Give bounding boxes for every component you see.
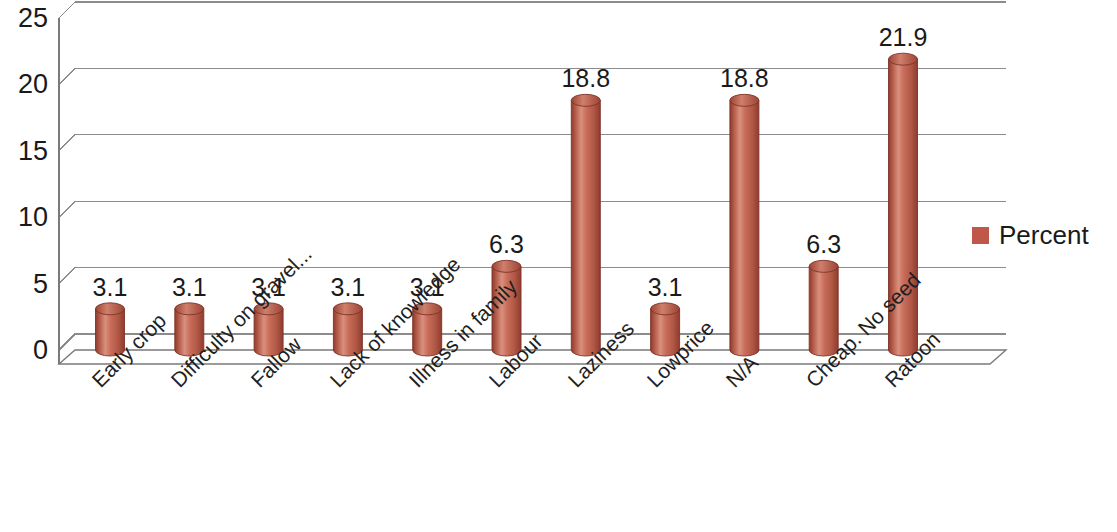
data-value-label: 18.8 (536, 66, 636, 91)
data-value-label: 6.3 (774, 232, 874, 257)
legend-swatch-percent (972, 227, 989, 244)
data-value-label: 18.8 (694, 66, 794, 91)
data-value-label: 6.3 (457, 232, 557, 257)
legend: Percent (972, 222, 1089, 248)
data-value-label: 3.1 (615, 275, 715, 300)
bar-chart: 25 20 15 10 5 0 3.13. (0, 0, 1117, 532)
data-value-label: 21.9 (853, 25, 953, 50)
legend-label-percent: Percent (999, 222, 1089, 248)
bar-series (96, 53, 918, 356)
